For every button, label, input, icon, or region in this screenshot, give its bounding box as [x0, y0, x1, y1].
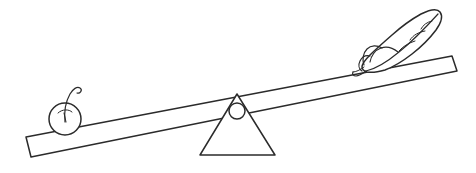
pivot-circle — [229, 103, 245, 119]
line-drawing-canvas — [0, 0, 476, 173]
seesaw-illustration: Seesaw balance line drawing cherry feath… — [0, 0, 476, 173]
